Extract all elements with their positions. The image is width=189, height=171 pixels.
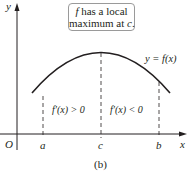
annotation-box: f has a local maximum at c. [68, 3, 135, 31]
origin-label: O [5, 138, 13, 150]
curve-label: y = f(x) [144, 53, 177, 65]
figure-caption: (b) [94, 158, 107, 171]
annotation-period: . [132, 17, 135, 29]
annotation-text-1: has a local [78, 5, 127, 17]
annotation-line-1: f has a local [69, 5, 134, 17]
y-axis-label: y [5, 0, 11, 12]
annotation-text-2: maximum at [69, 17, 127, 29]
y-axis-arrow-icon [15, 3, 20, 11]
annotation-line-2: maximum at c. [69, 17, 134, 29]
x-axis-arrow-icon [179, 132, 187, 137]
tick-label-a: a [40, 139, 46, 151]
tick-label-c: c [98, 139, 103, 151]
region-label-increasing: f′(x) > 0 [52, 104, 85, 116]
region-label-decreasing: f′(x) < 0 [110, 104, 143, 116]
x-axis-label: x [179, 138, 185, 150]
tick-label-b: b [156, 139, 162, 151]
